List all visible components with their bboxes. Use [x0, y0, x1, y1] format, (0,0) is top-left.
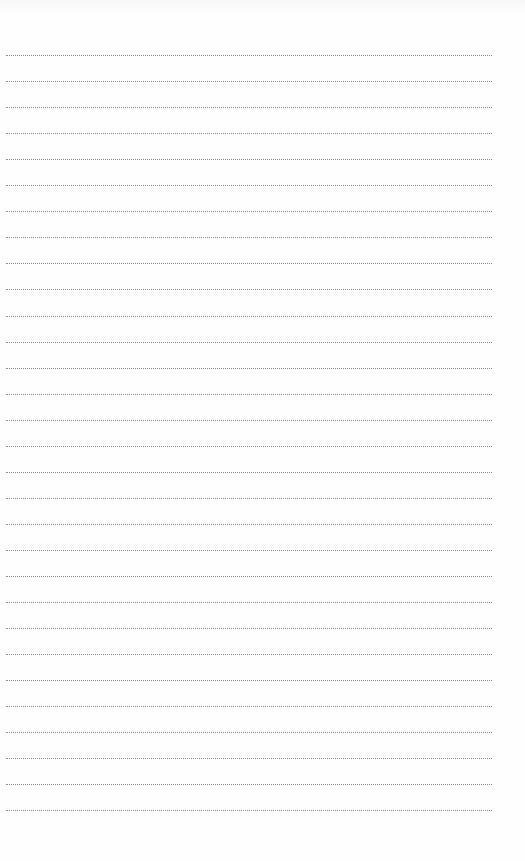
ruled-line [6, 654, 492, 655]
ruled-line [6, 758, 492, 759]
ruled-line [6, 107, 492, 108]
lined-paper-page [0, 0, 525, 861]
ruled-line [6, 576, 492, 577]
ruled-line [6, 524, 492, 525]
ruled-line [6, 550, 492, 551]
ruled-line [6, 342, 492, 343]
ruled-line [6, 706, 492, 707]
ruled-line [6, 810, 492, 811]
ruled-line [6, 368, 492, 369]
ruled-line [6, 211, 492, 212]
ruled-line [6, 446, 492, 447]
top-edge-bleed [0, 0, 525, 14]
ruled-line [6, 628, 492, 629]
ruled-line [6, 784, 492, 785]
ruled-line [6, 498, 492, 499]
ruled-line [6, 394, 492, 395]
ruled-line [6, 263, 492, 264]
ruled-line [6, 185, 492, 186]
ruled-line [6, 237, 492, 238]
ruled-line [6, 732, 492, 733]
ruled-line [6, 472, 492, 473]
ruled-line [6, 133, 492, 134]
ruled-line [6, 55, 492, 56]
ruled-line [6, 316, 492, 317]
ruled-line [6, 680, 492, 681]
ruled-line [6, 602, 492, 603]
ruled-line [6, 159, 492, 160]
ruled-line [6, 81, 492, 82]
ruled-line [6, 420, 492, 421]
ruled-line [6, 289, 492, 290]
